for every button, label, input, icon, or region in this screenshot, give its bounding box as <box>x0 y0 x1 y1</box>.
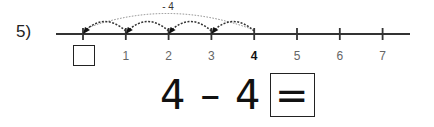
tick-label-5: 5 <box>294 49 301 63</box>
tick-label-3: 3 <box>208 49 215 63</box>
tick-label-1: 1 <box>122 49 129 63</box>
number-line: 1234567 - 4 <box>0 0 434 70</box>
tick-label-6: 6 <box>336 49 343 63</box>
arrowhead-icon <box>83 27 90 34</box>
answer-box[interactable] <box>270 73 315 117</box>
tick-label-2: 2 <box>165 49 172 63</box>
jump-arc <box>171 22 212 32</box>
arrowhead-icon <box>126 27 133 34</box>
tick-label-4: 4 <box>251 49 258 63</box>
missing-number-box[interactable] <box>73 45 95 66</box>
arrowhead-icon <box>211 27 218 34</box>
arrowhead-icon <box>169 27 176 34</box>
jump-arc <box>128 22 169 32</box>
tick-label-7: 7 <box>379 49 386 63</box>
jump-label: - 4 <box>162 1 174 12</box>
